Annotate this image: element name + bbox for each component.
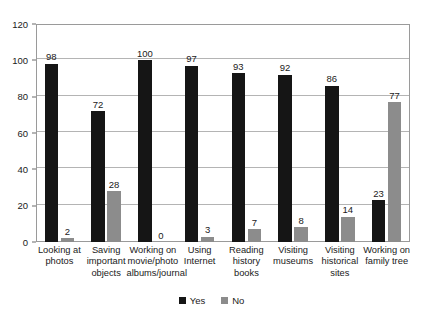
bar-value-label: 23 — [373, 189, 384, 199]
bar-value-label: 72 — [93, 100, 104, 110]
y-axis: 020406080100120 — [0, 24, 36, 242]
y-tick-label: 120 — [12, 19, 28, 29]
bar-no — [248, 229, 262, 242]
y-tick-label: 0 — [23, 237, 28, 247]
x-category-label: Visiting historical sites — [314, 245, 367, 279]
legend-swatch-icon — [179, 297, 186, 304]
bar-value-label: 3 — [205, 225, 210, 235]
y-tick-label: 40 — [17, 165, 28, 175]
bar-value-label: 2 — [65, 227, 70, 237]
legend-label: No — [232, 296, 244, 306]
x-category-label: Reading history books — [220, 245, 273, 279]
bar-no — [388, 102, 402, 242]
bar-yes — [185, 66, 199, 242]
bar-no — [61, 238, 75, 242]
x-category-label: Working on movie/photo albums/journal — [127, 245, 180, 279]
bar-value-label: 86 — [327, 74, 338, 84]
bar-value-label: 8 — [298, 216, 303, 226]
bar-value-label: 28 — [109, 180, 120, 190]
legend-label: Yes — [190, 296, 206, 306]
x-category-label: Looking at photos — [33, 245, 86, 268]
bar-value-label: 98 — [46, 52, 57, 62]
x-category-label: Using Internet — [173, 245, 226, 268]
bar-yes — [91, 111, 105, 242]
chart-legend: YesNo — [0, 296, 423, 306]
y-tick-label: 100 — [12, 56, 28, 66]
bar-value-label: 14 — [343, 205, 354, 215]
x-category-label: Visiting museums — [267, 245, 320, 268]
bar-chart: 020406080100120 982722810009739379288614… — [0, 0, 423, 317]
bar-value-label: 100 — [137, 49, 153, 59]
bar-yes — [138, 60, 152, 242]
bar-yes — [325, 86, 339, 242]
bar-yes — [372, 200, 386, 242]
bar-value-label: 92 — [280, 63, 291, 73]
bars-layer: 9827228100097393792886142377 — [36, 24, 410, 242]
bar-yes — [278, 75, 292, 242]
bar-no — [294, 227, 308, 242]
x-category-label: Working on family tree — [360, 245, 413, 268]
bar-yes — [232, 73, 246, 242]
x-category-label: Saving important objects — [80, 245, 133, 279]
bar-value-label: 7 — [252, 218, 257, 228]
bar-value-label: 93 — [233, 62, 244, 72]
bar-value-label: 0 — [158, 231, 163, 241]
y-tick-label: 60 — [17, 128, 28, 138]
legend-item-no[interactable]: No — [221, 296, 244, 306]
bar-no — [201, 237, 215, 242]
bar-value-label: 77 — [389, 91, 400, 101]
bar-no — [341, 217, 355, 242]
bar-no — [107, 191, 121, 242]
y-tick-label: 80 — [17, 92, 28, 102]
bar-value-label: 97 — [186, 54, 197, 64]
legend-item-yes[interactable]: Yes — [179, 296, 206, 306]
x-axis-labels: Looking at photosSaving important object… — [36, 245, 410, 293]
legend-swatch-icon — [221, 297, 228, 304]
y-tick-label: 20 — [17, 201, 28, 211]
bar-yes — [45, 64, 59, 242]
